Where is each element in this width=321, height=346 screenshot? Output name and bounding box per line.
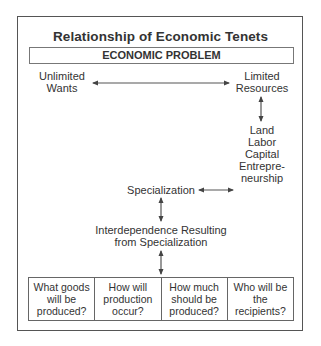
question-4-line-3: recipients? — [234, 305, 288, 317]
question-3-line-3: produced? — [169, 305, 219, 317]
question-2-line-2: production — [103, 293, 152, 305]
question-2-line-3: occur? — [103, 305, 152, 317]
question-4-line-2: the — [234, 293, 288, 305]
question-1-line-3: produced? — [34, 305, 90, 317]
question-how-much: How much should be produced? — [162, 278, 228, 320]
question-what-goods: What goods will be produced? — [29, 278, 95, 320]
question-1-line-1: What goods — [34, 281, 90, 293]
question-1-line-2: will be — [34, 293, 90, 305]
economic-questions-table: What goods will be produced? How will pr… — [28, 277, 294, 321]
question-3-line-1: How much — [169, 281, 219, 293]
question-3-line-2: should be — [169, 293, 219, 305]
question-2-line-1: How will — [103, 281, 152, 293]
question-4-line-1: Who will be — [234, 281, 288, 293]
question-how-production: How will production occur? — [95, 278, 161, 320]
question-who-recipients: Who will be the recipients? — [228, 278, 293, 320]
